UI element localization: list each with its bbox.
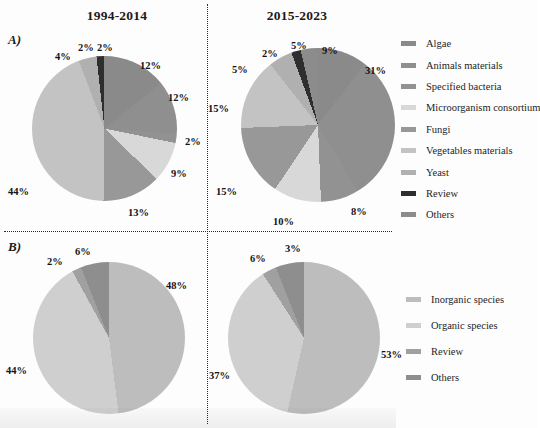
legend-swatch-icon bbox=[401, 105, 416, 110]
legend-item: Fungi bbox=[401, 119, 540, 140]
legend-item-label: Microorganism consortium bbox=[426, 102, 540, 113]
substrate-legend: AlgaeAnimals materialsSpecified bacteria… bbox=[401, 33, 540, 226]
horizontal-divider bbox=[4, 231, 392, 232]
legend-item: Organic species bbox=[406, 312, 504, 338]
pie-chart-panel-b-2015-2023 bbox=[228, 262, 380, 414]
scan-shading-artifact bbox=[0, 408, 396, 428]
legend-item: Vegetables materials bbox=[401, 140, 540, 161]
legend-item: Others bbox=[401, 204, 540, 225]
legend-item-label: Algae bbox=[426, 38, 451, 49]
legend-swatch-icon bbox=[406, 323, 421, 328]
legend-swatch-icon bbox=[401, 170, 416, 175]
legend-swatch-icon bbox=[401, 212, 416, 217]
legend-swatch-icon bbox=[401, 127, 416, 132]
legend-item: Specified bacteria bbox=[401, 76, 540, 97]
pie-slice-percent-label: 2% bbox=[97, 42, 113, 53]
legend-item: Animals materials bbox=[401, 54, 540, 75]
legend-item-label: Review bbox=[431, 346, 463, 357]
legend-swatch-icon bbox=[401, 191, 416, 196]
legend-item: Inorganic species bbox=[406, 286, 504, 312]
legend-item: Review bbox=[401, 183, 540, 204]
legend-swatch-icon bbox=[401, 148, 416, 153]
legend-item: Algae bbox=[401, 33, 540, 54]
pie-slice-percent-label: 9% bbox=[171, 168, 187, 179]
legend-swatch-icon bbox=[406, 297, 421, 302]
pie-slice-percent-label: 12% bbox=[168, 92, 189, 103]
pie-slice-percent-label: 44% bbox=[6, 365, 27, 376]
legend-item-label: Others bbox=[426, 209, 454, 220]
pie-slice-percent-label: 31% bbox=[365, 65, 386, 76]
legend-swatch-icon bbox=[401, 41, 416, 46]
pie-slice-percent-label: 53% bbox=[381, 349, 402, 360]
legend-item-label: Fungi bbox=[426, 124, 451, 135]
panel-label-b: B) bbox=[8, 239, 21, 255]
column-title-2015-2023: 2015-2023 bbox=[232, 8, 362, 24]
legend-item-label: Others bbox=[431, 372, 459, 383]
legend-item-label: Inorganic species bbox=[431, 294, 504, 305]
legend-item: Review bbox=[406, 338, 504, 364]
vertical-divider bbox=[207, 4, 208, 424]
pie-slice-percent-label: 6% bbox=[250, 253, 266, 264]
pie-slice-percent-label: 37% bbox=[209, 370, 230, 381]
pie-slice-percent-label: 15% bbox=[216, 186, 237, 197]
legend-swatch-icon bbox=[406, 375, 421, 380]
legend-item: Microorganism consortium bbox=[401, 97, 540, 118]
legend-item-label: Review bbox=[426, 188, 458, 199]
legend-swatch-icon bbox=[401, 84, 416, 89]
pie-slice-percent-label: 6% bbox=[75, 246, 91, 257]
legend-item-label: Vegetables materials bbox=[426, 145, 513, 156]
species-legend: Inorganic speciesOrganic speciesReviewOt… bbox=[406, 286, 504, 390]
panel-label-a: A) bbox=[8, 32, 21, 48]
pie-slice-percent-label: 12% bbox=[140, 60, 161, 71]
legend-item-label: Animals materials bbox=[426, 60, 503, 71]
pie-slice-percent-label: 2% bbox=[47, 256, 63, 267]
pie-slice-percent-label: 2% bbox=[262, 48, 278, 59]
pie-slice-percent-label: 9% bbox=[322, 45, 338, 56]
pie-slice-percent-label: 5% bbox=[232, 64, 248, 75]
pie-slice-percent-label: 5% bbox=[291, 40, 307, 51]
legend-item: Yeast bbox=[401, 161, 540, 182]
legend-item-label: Yeast bbox=[426, 167, 449, 178]
pie-slice-percent-label: 44% bbox=[8, 186, 29, 197]
legend-swatch-icon bbox=[401, 63, 416, 68]
pie-chart-panel-b-1994-2014 bbox=[33, 262, 185, 414]
pie-slice-percent-label: 2% bbox=[185, 136, 201, 147]
pie-slice-percent-label: 3% bbox=[285, 243, 301, 254]
pie-slice-percent-label: 2% bbox=[78, 42, 94, 53]
pie-slice-percent-label: 13% bbox=[128, 207, 149, 218]
pie-slice-percent-label: 48% bbox=[166, 280, 187, 291]
legend-item-label: Organic species bbox=[431, 320, 498, 331]
legend-item: Others bbox=[406, 364, 504, 390]
pie-slice-percent-label: 4% bbox=[55, 51, 71, 62]
column-title-1994-2014: 1994-2014 bbox=[52, 8, 182, 24]
pie-slice-percent-label: 8% bbox=[351, 206, 367, 217]
pie-slice-percent-label: 15% bbox=[208, 103, 229, 114]
pie-slice-percent-label: 10% bbox=[273, 216, 294, 227]
legend-swatch-icon bbox=[406, 349, 421, 354]
legend-item-label: Specified bacteria bbox=[426, 81, 502, 92]
pie-chart-panel-a-1994-2014 bbox=[32, 56, 177, 201]
